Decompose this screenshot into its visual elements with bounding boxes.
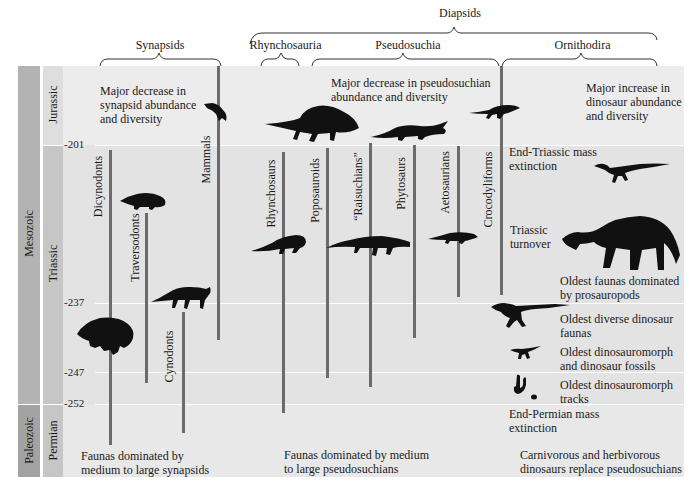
traversodont-silhouette-icon: [120, 193, 165, 210]
cynodont-silhouette-icon: [151, 287, 211, 309]
dinosauromorph-silhouette-icon: [510, 346, 541, 359]
theropod-small-silhouette-icon: [594, 164, 670, 184]
phytosaur-silhouette-icon: [371, 121, 448, 141]
rhynchosaur-silhouette-icon: [251, 235, 306, 254]
raisuchian-silhouette-icon: [326, 236, 410, 256]
sailback-silhouette-icon: [265, 106, 359, 142]
silhouettes: [0, 0, 699, 491]
footprint-tracks-icon: [514, 375, 537, 400]
mammal-silhouette-icon: [204, 103, 227, 121]
theropod-medium-silhouette-icon: [491, 303, 570, 328]
prosauropod-silhouette-icon: [562, 216, 680, 270]
crocodyliform-silhouette-icon: [469, 105, 520, 119]
aetosaur-silhouette-icon: [428, 232, 478, 244]
dicynodont-silhouette-icon: [77, 318, 133, 355]
